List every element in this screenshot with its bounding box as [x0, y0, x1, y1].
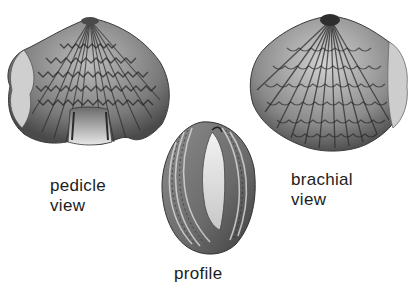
pedicle-view-illustration	[2, 14, 177, 154]
brachial-view-illustration	[243, 8, 411, 154]
brachial-view-label-line-1: brachial	[291, 170, 353, 190]
profile-label: profile	[174, 264, 222, 284]
profile-label-line-1: profile	[174, 264, 222, 284]
brachial-view-label: brachial view	[291, 170, 353, 210]
brachiopod-figure: pedicle view brachial view profile	[0, 0, 411, 295]
pedicle-view-label: pedicle view	[50, 176, 106, 216]
profile-view-illustration	[158, 118, 258, 258]
pedicle-view-label-line-2: view	[50, 196, 106, 216]
brachial-view-label-line-2: view	[291, 190, 353, 210]
pedicle-view-label-line-1: pedicle	[50, 176, 106, 196]
